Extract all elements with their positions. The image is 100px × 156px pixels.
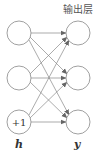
right-layer-label: y <box>74 138 80 151</box>
output-node-2 <box>66 66 90 90</box>
left-layer-label: h <box>15 138 23 151</box>
bias-node-label: +1 <box>12 117 27 128</box>
connections <box>29 33 69 122</box>
output-node-3 <box>66 110 90 134</box>
network-diagram: +1 <box>0 0 100 156</box>
output-node-1 <box>66 21 90 45</box>
input-node-1 <box>7 21 31 45</box>
input-node-2 <box>7 66 31 90</box>
